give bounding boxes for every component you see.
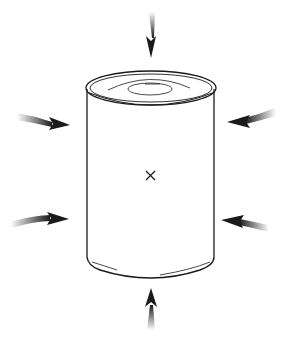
arrow-left-upper-icon — [17, 113, 70, 130]
arrow-right-upper-icon — [227, 108, 276, 128]
arrow-top-icon — [146, 12, 156, 58]
arrow-bottom-icon — [145, 288, 157, 330]
arrow-left-lower-icon — [10, 212, 69, 228]
arrow-right-lower-icon — [221, 215, 269, 232]
center-marker-icon — [146, 171, 155, 180]
